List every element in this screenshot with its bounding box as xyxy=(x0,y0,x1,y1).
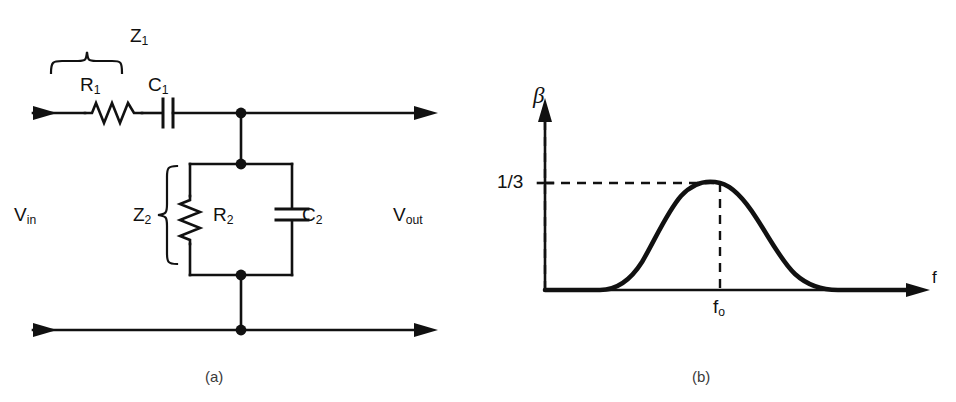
label-z2: Z2 xyxy=(133,205,151,227)
label-peak-value: 1/3 xyxy=(497,172,523,191)
output-arrow-bottom xyxy=(414,323,438,337)
resistor-r1-symbol xyxy=(85,103,142,123)
z2-brace xyxy=(158,166,177,264)
caption-panel-a: (a) xyxy=(205,368,223,385)
label-vin: Vin xyxy=(14,205,36,227)
input-arrow-top xyxy=(33,106,57,120)
junction-dot-top xyxy=(236,108,247,119)
output-arrow-top xyxy=(414,106,438,120)
label-r1: R1 xyxy=(80,75,101,97)
input-arrow-bottom xyxy=(33,323,57,337)
panel-a-circuit-svg xyxy=(0,0,478,402)
resistor-r2-symbol xyxy=(180,196,200,244)
label-r2: R2 xyxy=(213,205,234,227)
label-f-axis: f xyxy=(932,269,937,286)
junction-dot-z2-top xyxy=(236,159,247,170)
z1-brace xyxy=(51,52,122,73)
label-c1: C1 xyxy=(148,75,169,97)
label-beta-axis: β xyxy=(533,84,544,107)
junction-dot-z2-bottom xyxy=(236,270,247,281)
label-center-frequency: fo xyxy=(713,297,725,319)
label-c2: C2 xyxy=(302,205,323,227)
frequency-response-curve xyxy=(545,182,912,290)
junction-dot-bottom xyxy=(236,325,247,336)
figure-container: Z1 R1 C1 Vin Z2 R2 C2 Vout β 1/3 fo f xyxy=(0,0,956,402)
label-vout: Vout xyxy=(393,205,423,227)
caption-panel-b: (b) xyxy=(692,368,710,385)
panel-b-chart-svg xyxy=(478,0,956,402)
label-z1: Z1 xyxy=(130,26,148,48)
